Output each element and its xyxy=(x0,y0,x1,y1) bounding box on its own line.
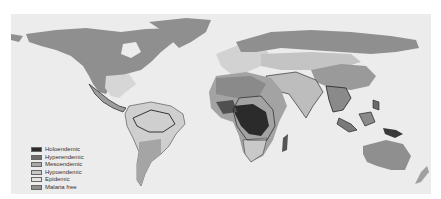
central-america xyxy=(105,74,136,98)
legend-label: Epidemic xyxy=(45,176,70,183)
legend: Holoendemic Hyperendemic Mesoendemic Hyp… xyxy=(31,146,84,191)
legend-swatch xyxy=(31,177,42,182)
legend-item-hyperendemic: Hyperendemic xyxy=(31,154,84,162)
legend-label: Mesoendemic xyxy=(45,161,82,168)
legend-swatch xyxy=(31,162,42,167)
legend-swatch xyxy=(31,170,42,175)
north-asia xyxy=(236,30,419,54)
legend-label: Hypoendemic xyxy=(45,169,82,176)
southeast-asia xyxy=(326,86,351,112)
legend-swatch xyxy=(31,147,42,152)
world-map: Holoendemic Hyperendemic Mesoendemic Hyp… xyxy=(11,14,431,194)
legend-item-epidemic: Epidemic xyxy=(31,176,84,184)
legend-item-holoendemic: Holoendemic xyxy=(31,146,84,154)
legend-swatch xyxy=(31,155,42,160)
legend-label: Hyperendemic xyxy=(45,154,84,161)
legend-label: Holoendemic xyxy=(45,146,80,153)
legend-swatch xyxy=(31,185,42,190)
legend-item-malaria-free: Malaria free xyxy=(31,184,84,192)
australia xyxy=(363,140,411,170)
legend-item-mesoendemic: Mesoendemic xyxy=(31,161,84,169)
legend-item-hypoendemic: Hypoendemic xyxy=(31,169,84,177)
legend-label: Malaria free xyxy=(45,184,77,191)
